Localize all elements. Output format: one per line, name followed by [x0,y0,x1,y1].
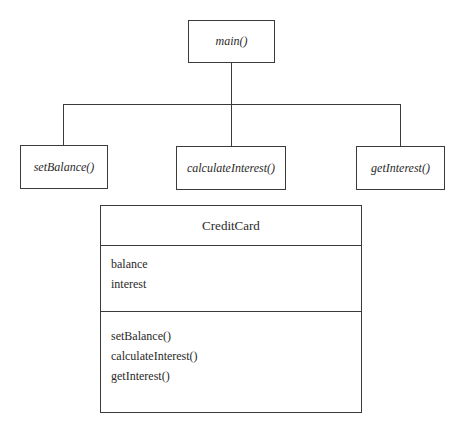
connector-getinterest [400,104,401,147]
class-name: CreditCard [202,218,260,234]
calculateinterest-label: calculateInterest() [187,161,275,176]
method-setbalance: setBalance() [111,326,361,346]
connector-horizontal [63,104,401,105]
creditcard-class-box: CreditCard balance interest setBalance()… [100,205,362,413]
class-name-compartment: CreditCard [101,206,361,246]
calculateinterest-function-box: calculateInterest() [176,146,286,190]
method-calculateinterest: calculateInterest() [111,346,361,366]
setbalance-function-box: setBalance() [20,145,108,189]
getinterest-function-box: getInterest() [356,146,445,190]
getinterest-label: getInterest() [371,161,430,176]
connector-calculateinterest [231,104,232,147]
connector-main-down [231,62,232,105]
attribute-interest: interest [111,274,361,294]
connector-setbalance [63,104,64,146]
setbalance-label: setBalance() [34,160,95,175]
methods-compartment: setBalance() calculateInterest() getInte… [101,312,361,386]
main-function-box: main() [188,20,275,63]
attribute-balance: balance [111,254,361,274]
attributes-compartment: balance interest [101,246,361,312]
method-getinterest: getInterest() [111,366,361,386]
main-function-label: main() [216,34,248,49]
